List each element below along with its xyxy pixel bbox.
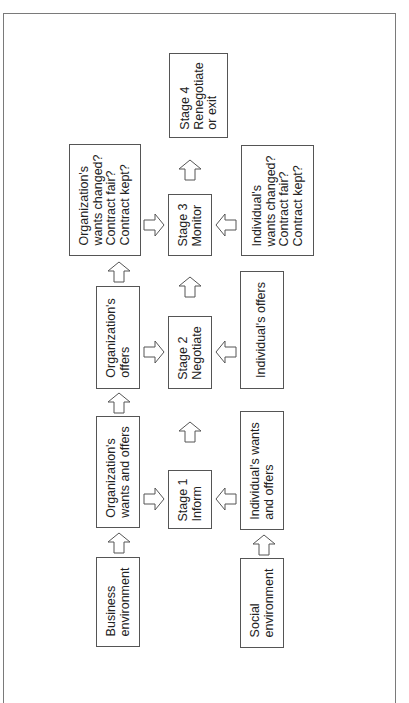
org-offers-label: Organization's offers: [105, 298, 132, 378]
business-environment-label: Business environment: [105, 568, 132, 637]
arrow-left-icon: [215, 487, 237, 511]
ind-offers-box: Individual's offers: [240, 271, 284, 389]
org-wants-offers-label: Organization's wants and offers: [105, 426, 132, 518]
ind-offers-label: Individual's offers: [255, 282, 269, 378]
stage1-box: Stage 1 Inform: [168, 470, 212, 529]
org-wants-offers-box: Organization's wants and offers: [96, 416, 140, 528]
arrow-right-icon: [143, 213, 165, 237]
arrow-right-icon: [143, 487, 165, 511]
stage3-label: Stage 3 Monitor: [177, 203, 204, 246]
stage4-box: Stage 4 Renegotiate or exit: [169, 53, 228, 138]
ind-wants-changed-label: Individual's wants changed? Contract fai…: [251, 155, 305, 246]
org-offers-box: Organization's offers: [96, 286, 140, 389]
arrow-up-icon: [107, 392, 131, 414]
arrow-up-icon: [252, 534, 276, 556]
arrow-up-icon: [178, 276, 202, 298]
arrow-left-icon: [215, 213, 237, 237]
stage1-label: Stage 1 Inform: [177, 478, 204, 521]
stage2-box: Stage 2 Negotiate: [168, 316, 212, 389]
stage2-label: Stage 2 Negotiate: [177, 326, 204, 380]
stage4-label: Stage 4 Renegotiate or exit: [178, 62, 219, 129]
ind-wants-changed-box: Individual's wants changed? Contract fai…: [241, 145, 314, 256]
ind-wants-offers-box: Individual's wants and offers: [240, 411, 284, 530]
ind-wants-offers-label: Individual's wants and offers: [249, 422, 276, 520]
org-wants-changed-label: Organization's wants changed? Contract f…: [78, 154, 132, 245]
arrow-up-icon: [107, 532, 131, 554]
social-environment-box: Social environment: [240, 558, 284, 648]
arrow-left-icon: [215, 340, 237, 364]
arrow-up-icon: [178, 421, 202, 443]
arrow-right-icon: [143, 340, 165, 364]
arrow-up-icon: [178, 159, 202, 181]
stage3-box: Stage 3 Monitor: [168, 194, 212, 256]
social-environment-label: Social environment: [249, 569, 276, 638]
arrow-up-icon: [107, 261, 131, 283]
business-environment-box: Business environment: [96, 557, 140, 647]
org-wants-changed-box: Organization's wants changed? Contract f…: [69, 144, 141, 256]
